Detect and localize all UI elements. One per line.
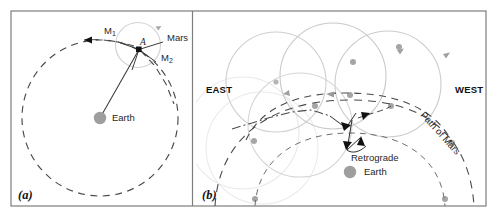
panel-tag-a: (a)	[18, 189, 33, 202]
label-m1: M1	[104, 26, 116, 36]
label-earth-b: Earth	[364, 167, 387, 177]
label-earth-a: Earth	[112, 113, 135, 123]
body-dot-bottom-right	[442, 196, 448, 202]
label-m2: M2	[161, 53, 173, 63]
label-point-a: A	[140, 38, 146, 48]
epicycle-center-dot-1	[273, 79, 278, 84]
figure-canvas	[0, 0, 497, 217]
figure-container: M1 M2 Mars A Earth (a) EAST WEST Retrogr…	[0, 0, 497, 217]
earth-marker-b	[344, 166, 356, 178]
body-dot-top-right	[396, 44, 402, 50]
body-dot-left-mid	[312, 103, 318, 109]
label-retrograde: Retrograde	[351, 153, 399, 163]
body-dot-lower-left	[251, 138, 257, 144]
label-west: WEST	[455, 85, 483, 95]
panel-tag-b: (b)	[202, 189, 217, 202]
label-east: EAST	[206, 85, 232, 95]
earth-marker-a	[94, 112, 106, 124]
body-dot-top-mid	[350, 59, 356, 65]
label-mars: Mars	[167, 33, 188, 43]
